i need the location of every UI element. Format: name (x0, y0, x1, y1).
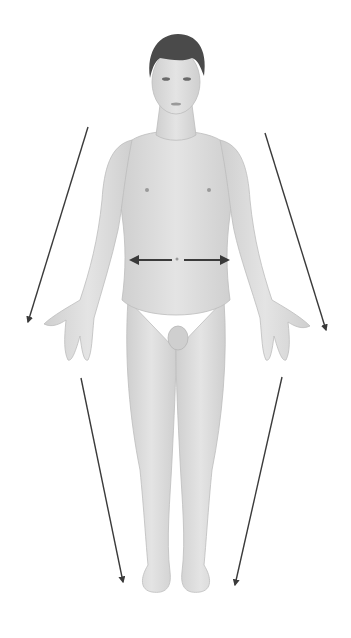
right-leg-arrow (235, 377, 282, 585)
human-body (44, 50, 310, 592)
anatomy-figure-svg (0, 0, 351, 638)
left-arm-arrow (28, 127, 88, 322)
torso (120, 131, 232, 315)
left-leg-arrow (81, 378, 123, 582)
left-leg (127, 300, 176, 592)
anatomy-diagram (0, 0, 351, 638)
right-arm (220, 140, 310, 360)
right-arm-arrow (265, 133, 326, 330)
left-arm (44, 140, 132, 360)
